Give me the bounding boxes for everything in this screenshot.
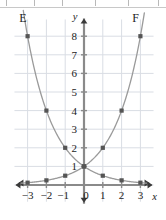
x-tick-label: −1 [57, 189, 69, 201]
exponential-graph-svg: −3−2−1012312345678xy EF [0, 8, 166, 208]
x-tick-label: −3 [22, 189, 34, 201]
graph-figure: −3−2−1012312345678xy EF [0, 0, 166, 220]
data-point-marker [82, 164, 86, 168]
data-point-marker [101, 174, 105, 178]
data-point-marker [26, 181, 30, 185]
data-point-marker [63, 174, 67, 178]
y-tick-label: 5 [72, 86, 78, 98]
data-point-marker [44, 109, 48, 113]
x-tick-label: −2 [41, 189, 53, 201]
page-edge-strip [0, 0, 166, 8]
data-point-marker [138, 34, 142, 38]
data-point-marker [120, 178, 124, 182]
y-tick-label: 4 [72, 105, 78, 117]
y-axis-label: y [72, 11, 78, 22]
curve-label-e: E [19, 11, 26, 25]
y-tick-label: 6 [72, 67, 78, 79]
x-axis-label: x [151, 191, 157, 202]
y-tick-label: 8 [72, 30, 78, 42]
x-tick-label: 1 [100, 189, 106, 201]
curve-f [21, 13, 144, 183]
data-point-marker [138, 181, 142, 185]
data-point-marker [63, 146, 67, 150]
x-tick-label: 3 [138, 189, 144, 201]
y-axis-arrow-up [81, 18, 88, 23]
y-tick-label: 1 [72, 160, 78, 172]
y-tick-label: 3 [72, 123, 78, 135]
y-tick-label: 7 [72, 49, 78, 61]
tick-labels: −3−2−1012312345678xy [22, 11, 157, 202]
x-tick-label: 2 [119, 189, 125, 201]
curve-label-f: F [132, 11, 139, 25]
y-tick-label: 2 [72, 142, 78, 154]
data-point-marker [101, 146, 105, 150]
data-point-marker [120, 109, 124, 113]
coordinate-plane: −3−2−1012312345678xy EF [0, 8, 166, 208]
x-tick-label: 0 [83, 189, 89, 201]
data-point-marker [44, 178, 48, 182]
data-point-marker [26, 34, 30, 38]
